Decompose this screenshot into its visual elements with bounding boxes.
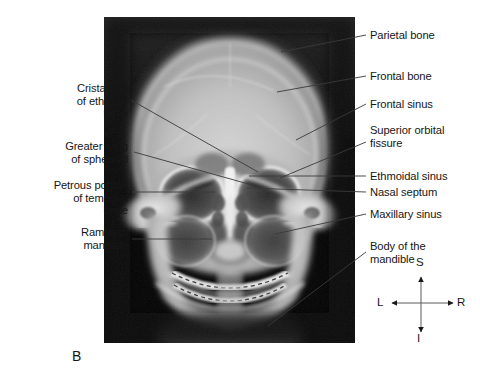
radiograph-canvas [104,17,355,343]
label-ramus-of-mandible: Ramus of mandible [8,226,128,251]
label-ethmoidal-sinus: Ethmoidal sinus [370,170,478,183]
label-greater-wing-of-sphenoid: Greater wing of sphenoid [8,140,128,165]
compass-label-right: R [457,296,465,308]
compass-label-superior: S [416,256,424,268]
label-frontal-bone: Frontal bone [370,70,478,83]
label-parietal-bone: Parietal bone [370,29,478,42]
label-superior-orbital-fissure: Superior orbital fissure [370,124,478,149]
figure-panel: Crista galli of ethmoid bone Greater win… [0,0,480,371]
label-crista-galli: Crista galli of ethmoid bone [8,82,128,120]
compass-label-inferior: I [417,332,420,344]
orientation-compass: S I L R [375,262,469,354]
compass-label-left: L [377,296,383,308]
label-petrous-portion-of-temporal-bone: Petrous portion of temporal bone [0,179,128,217]
panel-letter-b: B [72,348,81,364]
skull-radiograph-image [104,17,355,343]
label-frontal-sinus: Frontal sinus [370,98,478,111]
label-maxillary-sinus: Maxillary sinus [370,208,478,221]
compass-axes-icon [375,262,469,354]
label-nasal-septum: Nasal septum [370,186,478,199]
